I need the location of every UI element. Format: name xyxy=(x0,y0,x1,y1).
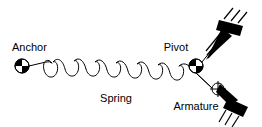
anchor-lead-wire xyxy=(29,62,52,66)
armature-label: Armature xyxy=(173,100,218,112)
arm-link-line-2 xyxy=(196,73,213,89)
anchor-point-icon xyxy=(15,59,29,73)
lower-link-group xyxy=(216,84,248,127)
pivot-label: Pivot xyxy=(164,41,188,53)
spring-label: Spring xyxy=(100,92,132,104)
upper-link-group xyxy=(202,8,247,63)
diagram-canvas: Anchor Spring Pivot Armature xyxy=(0,0,262,127)
anchor-label: Anchor xyxy=(12,41,47,53)
mechanism-diagram: Anchor Spring Pivot Armature xyxy=(0,0,262,127)
upper-block-hatching xyxy=(224,8,247,23)
spring-coil-path xyxy=(44,59,184,80)
pivot-group xyxy=(189,59,203,73)
pivot-point-icon xyxy=(189,59,203,73)
spring-coil xyxy=(44,59,191,80)
